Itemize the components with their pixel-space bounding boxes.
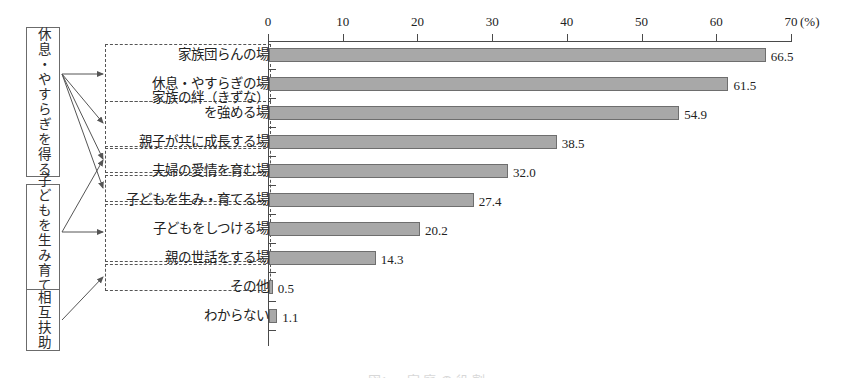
x-tick-label-20: 20: [411, 14, 424, 30]
x-tick-40: [567, 34, 568, 42]
category-box-mutual-aid: 相互扶助: [26, 289, 60, 351]
y-tick-2: [269, 127, 276, 128]
x-tick-60: [716, 34, 717, 42]
bar-category-label-1: 休息・やすらぎの場: [152, 76, 269, 91]
bar-1: [269, 77, 728, 91]
y-tick-7: [269, 272, 276, 273]
x-tick-10: [343, 34, 344, 42]
y-tick-1: [269, 98, 276, 99]
category-box-childrearing: 子どもを生み育てる: [26, 184, 60, 297]
x-tick-70: [791, 34, 792, 42]
category-box-childrearing-label: 子どもを生み育てる: [36, 173, 50, 308]
category-box-mutual-aid-label: 相互扶助: [36, 290, 50, 350]
y-tick-4: [269, 185, 276, 186]
x-tick-0: [268, 34, 269, 42]
x-tick-label-0: 0: [265, 14, 272, 30]
bar-category-label-3: 親子が共に成長する場: [139, 134, 269, 149]
bar-category-label-2-line2: を強める場: [152, 105, 269, 120]
bar-category-label-6: 子どもをしつける場: [153, 221, 269, 236]
x-tick-label-50: 50: [635, 14, 648, 30]
x-tick-50: [642, 34, 643, 42]
x-axis-unit-label: (%): [800, 14, 820, 30]
x-axis-line: [268, 41, 791, 42]
y-tick-9: [269, 330, 276, 331]
bar-category-label-5: 子どもを生み・育てる場: [126, 192, 269, 207]
y-tick-6: [269, 243, 276, 244]
bar-value-label-7: 14.3: [381, 252, 404, 268]
y-tick-8: [269, 301, 276, 302]
y-tick-3: [269, 156, 276, 157]
bar-category-label-2-line1: 家族の絆（きずな）: [152, 90, 269, 105]
bar-5: [269, 193, 474, 207]
x-tick-label-30: 30: [486, 14, 499, 30]
category-box-rest-label: 休息・やすらぎを得る: [36, 27, 50, 177]
x-tick-label-60: 60: [710, 14, 723, 30]
bar-6: [269, 222, 420, 236]
bar-9: [269, 309, 277, 323]
bar-value-label-4: 32.0: [513, 165, 536, 181]
bar-chart-figure: 休息・やすらぎを得る 子どもを生み育てる 相互扶助 (%) 図1: [0, 0, 853, 378]
bar-value-label-8: 0.5: [278, 281, 294, 297]
x-tick-label-40: 40: [560, 14, 573, 30]
bar-category-label-7: 親の世話をする場: [165, 250, 269, 265]
bar-value-label-9: 1.1: [282, 310, 298, 326]
x-tick-label-70: 70: [785, 14, 798, 30]
bar-4: [269, 164, 508, 178]
bar-value-label-0: 66.5: [771, 49, 794, 65]
bar-category-label-2: 家族の絆（きずな）を強める場: [152, 90, 269, 120]
bar-value-label-1: 61.5: [733, 78, 756, 94]
bar-2: [269, 106, 679, 120]
bar-3: [269, 135, 557, 149]
bar-value-label-3: 38.5: [562, 136, 585, 152]
x-tick-30: [492, 34, 493, 42]
bar-value-label-5: 27.4: [479, 194, 502, 210]
bar-category-label-8: その他: [230, 279, 269, 294]
bar-7: [269, 251, 376, 265]
bar-category-label-9: わからない: [204, 308, 269, 323]
bar-category-label-0: 家族団らんの場: [178, 47, 269, 62]
bar-value-label-6: 20.2: [425, 223, 448, 239]
y-tick-5: [269, 214, 276, 215]
bar-0: [269, 48, 766, 62]
figure-caption: 図1 家 庭 の 役 割: [0, 370, 853, 378]
x-tick-20: [417, 34, 418, 42]
bar-category-label-4: 夫婦の愛情を育む場: [152, 163, 269, 178]
bar-value-label-2: 54.9: [684, 107, 707, 123]
y-tick-0: [269, 69, 276, 70]
category-box-rest: 休息・やすらぎを得る: [26, 27, 60, 177]
bar-8: [269, 280, 273, 294]
x-tick-label-10: 10: [336, 14, 349, 30]
